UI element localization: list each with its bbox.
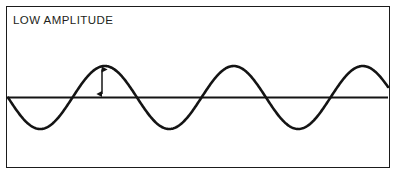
low-amplitude-figure: LOW AMPLITUDE [0,0,398,176]
figure-frame [6,6,390,168]
figure-caption: LOW AMPLITUDE [13,14,113,27]
